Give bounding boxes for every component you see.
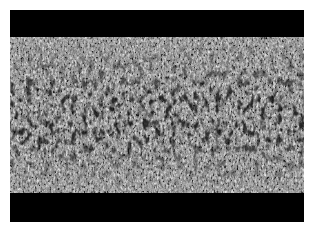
top-black-band bbox=[10, 10, 304, 37]
image-frame bbox=[10, 10, 304, 222]
noise-texture bbox=[10, 37, 304, 193]
bottom-black-band bbox=[10, 193, 304, 222]
texture-graphic bbox=[10, 37, 304, 193]
